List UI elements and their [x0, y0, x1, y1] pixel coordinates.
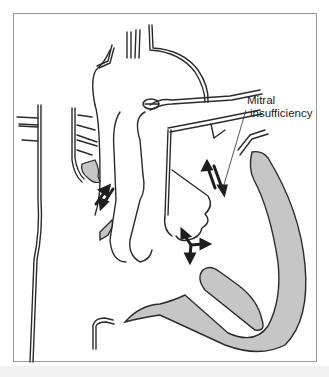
tricuspid-arrows: [96, 186, 113, 208]
mitral-arrows: [203, 162, 226, 194]
inferior-vessel: [93, 318, 114, 349]
bottom-strip: [0, 366, 329, 377]
heart-diagram: [0, 0, 329, 377]
vena-cava: [17, 105, 42, 362]
left-atrium: [165, 130, 268, 241]
annotation-mitral-line2: insufficiency: [250, 107, 312, 120]
ventricle-arrows: [182, 230, 209, 262]
pulmonary-artery: [143, 90, 262, 110]
annotation-mitral-line1: Mitral: [247, 94, 275, 107]
